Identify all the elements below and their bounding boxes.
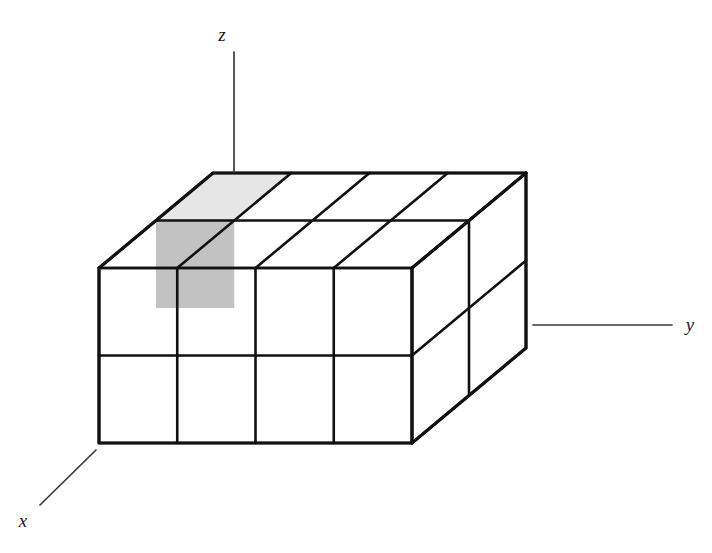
canvas-background — [0, 0, 712, 553]
block-diagram-canvas: z y x — [0, 0, 712, 553]
figure-root: z y x — [0, 0, 712, 553]
shaded-cube-front-face — [156, 221, 234, 309]
axis-label-y: y — [684, 314, 695, 335]
axis-label-x: x — [18, 510, 28, 531]
axis-label-z: z — [217, 24, 226, 45]
